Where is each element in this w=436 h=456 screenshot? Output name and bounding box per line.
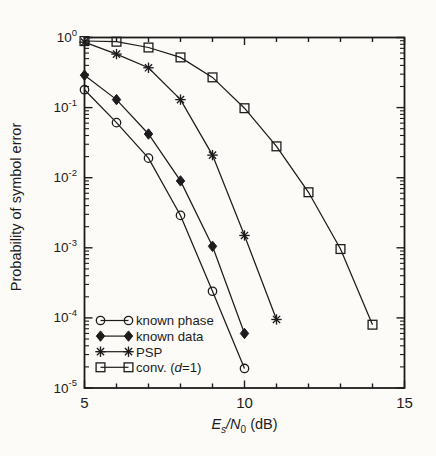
y-tick-label: 10-2 [54, 167, 77, 186]
y-tick-label: 10-1 [54, 97, 77, 116]
y-tick-label: 10-4 [54, 307, 77, 326]
y-tick-label: 100 [57, 27, 77, 46]
x-tick-labels: 51015 [80, 394, 413, 411]
chart-canvas: 10010-110-210-310-410-551015known phasek… [0, 0, 436, 456]
x-tick-label: 5 [80, 394, 88, 411]
legend-item-known-phase: known phase [96, 313, 213, 328]
legend-label: conv. (d=1) [136, 360, 201, 375]
legend-label: known phase [136, 313, 214, 328]
series-conv-d-1 [80, 37, 377, 329]
y-tick-label: 10-5 [54, 377, 77, 396]
y-tick-label: 10-3 [54, 237, 77, 256]
x-tick-label: 10 [236, 394, 253, 411]
chart-figure: 10010-110-210-310-410-551015known phasek… [0, 0, 436, 456]
x-tick-label: 15 [396, 394, 413, 411]
legend-item-known-data: known data [96, 329, 204, 344]
legend-item-psp: PSP [95, 345, 162, 360]
y-axis-title: Probability of symbol error [8, 123, 24, 292]
legend-label: PSP [136, 345, 163, 360]
y-axis-ticks: 10010-110-210-310-410-5 [54, 27, 405, 396]
legend-label: known data [136, 329, 204, 344]
series-known-data [80, 70, 248, 339]
legend: known phaseknown dataPSPconv. (d=1) [95, 313, 213, 375]
x-axis-title: Es/N0 (dB) [211, 416, 277, 435]
plot-area: 10010-110-210-310-410-551015known phasek… [54, 27, 413, 435]
legend-item-conv-d-1: conv. (d=1) [96, 360, 201, 375]
